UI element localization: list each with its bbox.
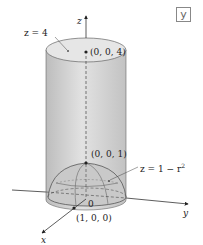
point-0-0-1-label: (0, 0, 1)	[91, 149, 127, 159]
y-axis	[126, 198, 188, 204]
point-0-0-4	[84, 50, 87, 53]
cylinder-paraboloid-diagram: z z = 4 (0, 0, 4) (0, 0, 1) z = 1 − r2 0…	[0, 0, 203, 245]
leader-dot	[67, 50, 69, 52]
figure-badge: y	[176, 7, 191, 22]
point-1-0-0-label: (1, 0, 0)	[76, 213, 112, 223]
y-axis-label: y	[182, 208, 189, 218]
x-axis-label: x	[41, 235, 46, 245]
paraboloid-equation-label: z = 1 − r2	[140, 162, 185, 174]
point-0-0-1	[84, 161, 87, 164]
plane-equation-label: z = 4	[24, 28, 48, 38]
origin-label: 0	[88, 199, 94, 209]
leader-dot	[108, 180, 110, 182]
point-1-0-0	[72, 206, 75, 209]
point-0-0-4-label: (0, 0, 4)	[90, 47, 126, 57]
y-axis-back	[12, 190, 46, 192]
z-axis-label: z	[76, 16, 82, 26]
